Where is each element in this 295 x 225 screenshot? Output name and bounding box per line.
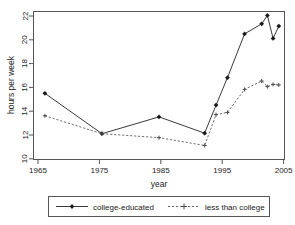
y-tick-label-20: 20 [21, 35, 30, 44]
chart-figure: 22 20 18 16 14 12 10 hours per week 1965… [0, 0, 295, 225]
x-tick-label-2005: 2005 [275, 166, 293, 175]
y-axis-tick-labels: 22 20 18 16 14 12 10 [21, 11, 30, 163]
x-axis-tick-labels: 1965 1975 1985 1995 2005 [29, 166, 293, 175]
x-tick-label-1965: 1965 [29, 166, 47, 175]
y-tick-label-16: 16 [21, 82, 30, 91]
x-tick-label-1975: 1975 [91, 166, 109, 175]
x-axis-title: year [151, 179, 168, 189]
x-tick-label-1985: 1985 [152, 166, 170, 175]
y-tick-label-14: 14 [21, 106, 30, 115]
y-axis-title: hours per week [6, 55, 16, 114]
x-axis-ticks [38, 160, 284, 165]
legend-label-less-than-college: less than college [205, 203, 265, 212]
y-tick-label-10: 10 [21, 154, 30, 163]
y-tick-label-12: 12 [21, 130, 30, 139]
line-chart: 22 20 18 16 14 12 10 hours per week 1965… [0, 0, 295, 225]
y-axis-ticks [29, 16, 34, 159]
chart-legend: college-educated less than college [49, 197, 270, 217]
y-tick-label-22: 22 [21, 11, 30, 20]
x-tick-label-1995: 1995 [213, 166, 231, 175]
legend-label-college-educated: college-educated [93, 203, 154, 212]
y-tick-label-18: 18 [21, 59, 30, 68]
